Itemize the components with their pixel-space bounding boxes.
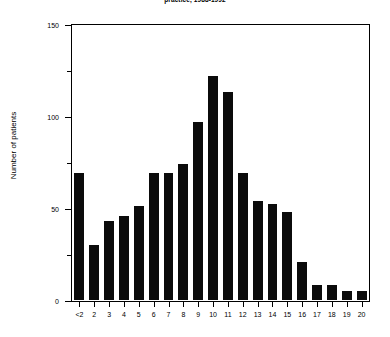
y-tick-minor [67,71,71,72]
x-tick [272,302,273,307]
chart-title: practice, 1988-1992 [0,0,390,4]
bar [222,91,234,301]
x-tick [332,302,333,307]
y-tick-label: 150 [25,22,59,29]
y-tick-major [65,117,71,118]
x-tick [94,302,95,307]
y-tick-label: 0 [25,298,59,305]
bar [296,261,308,301]
histogram-figure: practice, 1988-1992 Number of patients 0… [0,0,390,337]
x-tick [139,302,140,307]
bar [133,205,145,301]
x-tick [109,302,110,307]
x-tick [169,302,170,307]
y-tick-minor [67,255,71,256]
x-tick [198,302,199,307]
bar [341,290,353,301]
bar [267,203,279,301]
y-tick-major [65,301,71,302]
y-tick-minor [67,163,71,164]
bar [326,284,338,301]
bar [177,163,189,301]
x-tick [154,302,155,307]
y-tick-label: 100 [25,114,59,121]
y-tick-label: 50 [25,206,59,213]
x-tick [79,302,80,307]
x-tick [213,302,214,307]
x-tick [302,302,303,307]
x-tick [243,302,244,307]
bar [88,244,100,301]
x-tick [287,302,288,307]
y-tick-major [65,209,71,210]
bar [192,121,204,301]
y-tick-major [65,25,71,26]
bar [252,200,264,301]
plot-frame-right [369,24,370,302]
bar [73,172,85,301]
bar [103,220,115,301]
bar-series [72,25,369,301]
bar [311,284,323,301]
bar [148,172,160,301]
x-tick-label: 20 [350,311,374,319]
bar [281,211,293,301]
bar [237,172,249,301]
x-tick [183,302,184,307]
bar [118,215,130,301]
x-tick [317,302,318,307]
y-axis-title: Number of patients [9,86,18,206]
bar [356,290,368,301]
bar [207,75,219,301]
x-tick [258,302,259,307]
x-tick [124,302,125,307]
x-tick [228,302,229,307]
x-tick [362,302,363,307]
x-tick [347,302,348,307]
bar [163,172,175,301]
